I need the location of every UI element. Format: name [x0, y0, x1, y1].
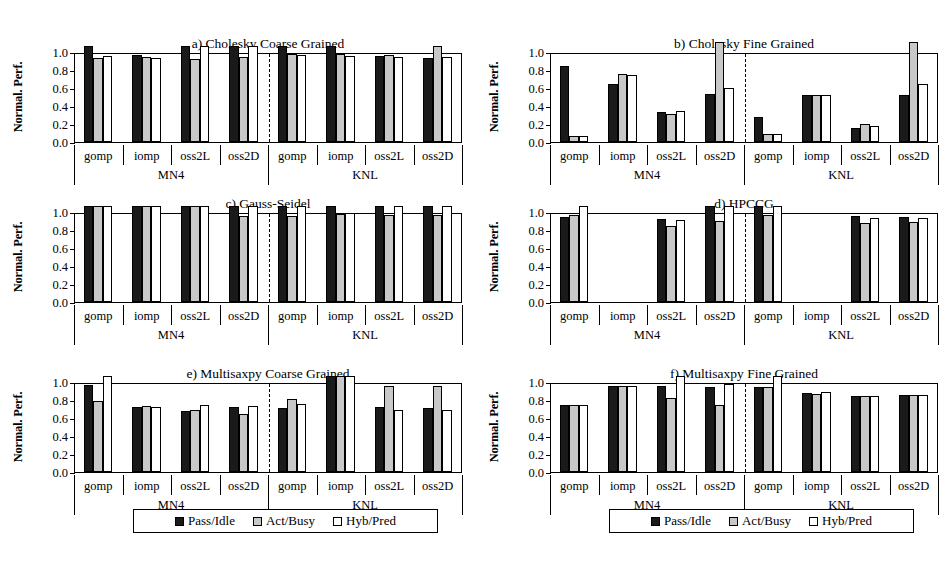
x-group-separator	[647, 305, 648, 325]
bar-e-5-hyb	[345, 376, 355, 472]
bar-c-0-pass	[84, 206, 94, 302]
bar-e-1-hyb	[151, 407, 161, 472]
chart-panel-e: e) Multisaxpy Coarse GrainedNormal. Perf…	[0, 366, 476, 529]
bar-f-0-pass	[560, 405, 570, 472]
x-group-label: gomp	[74, 149, 123, 163]
bar-e-3-pass	[229, 407, 239, 472]
bar-d-2-act	[666, 226, 676, 302]
x-group-separator	[123, 475, 124, 495]
bar-a-2-pass	[181, 46, 191, 142]
bar-c-3-act	[239, 216, 249, 302]
x-group-label: gomp	[744, 479, 793, 493]
bar-f-6-pass	[851, 396, 861, 473]
bar-c-1-hyb	[151, 206, 161, 302]
bar-d-7-pass	[899, 217, 909, 303]
bar-b-3-hyb	[724, 88, 734, 142]
y-tick-mark	[546, 303, 551, 304]
bar-e-4-act	[287, 399, 297, 472]
x-group-label: oss2L	[841, 149, 890, 163]
bar-a-4-pass	[278, 46, 288, 142]
bar-e-3-hyb	[248, 406, 258, 472]
x-group-label: gomp	[74, 479, 123, 493]
legend-swatch-act-icon	[253, 517, 262, 526]
y-tick-mark	[70, 303, 75, 304]
bar-f-5-hyb	[821, 392, 831, 472]
y-tick-label: 0.8	[528, 66, 544, 76]
bar-c-7-act	[433, 215, 443, 302]
legend-swatch-act-icon	[729, 517, 738, 526]
bar-f-3-pass	[705, 387, 715, 473]
x-group-label: iomp	[317, 479, 366, 493]
x-group-separator	[890, 305, 891, 325]
x-group-label: iomp	[123, 149, 172, 163]
bar-b-4-act	[763, 134, 773, 142]
bar-e-7-pass	[423, 408, 433, 472]
bar-a-0-act	[93, 58, 103, 142]
bar-c-7-pass	[423, 206, 433, 302]
x-group-separator	[938, 475, 939, 515]
x-group-label: oss2L	[841, 479, 890, 493]
y-tick-label: 1.0	[528, 48, 544, 58]
panel-title-d: d) HPCCG	[550, 196, 938, 212]
x-axis-c: gompiomposs2Loss2Dgompiomposs2Loss2DMN4K…	[0, 305, 476, 347]
y-tick-mark	[546, 473, 551, 474]
x-group-label: oss2L	[365, 309, 414, 323]
y-axis-label-d: Normal. Perf.	[487, 212, 502, 302]
x-group-label: iomp	[793, 309, 842, 323]
bar-d-2-hyb	[676, 220, 686, 302]
y-tick-label: 0.2	[528, 120, 544, 130]
y-tick-label: 0.6	[52, 244, 68, 254]
y-tick-label: 0.4	[52, 102, 68, 112]
x-group-label: gomp	[550, 309, 599, 323]
bar-e-7-hyb	[442, 410, 452, 472]
machine-divider-e	[269, 384, 270, 472]
y-tick-label: 1.0	[52, 208, 68, 218]
bar-e-1-act	[142, 406, 152, 472]
x-group-separator	[317, 145, 318, 165]
bar-a-5-act	[336, 54, 346, 142]
y-tick-mark	[70, 143, 75, 144]
x-group-label: oss2L	[647, 479, 696, 493]
plot-area-b	[550, 53, 938, 143]
x-group-label: oss2D	[696, 479, 745, 493]
bar-b-2-pass	[657, 112, 667, 142]
bar-d-4-act	[763, 215, 773, 302]
bar-b-2-hyb	[676, 111, 686, 142]
x-group-label: gomp	[744, 149, 793, 163]
y-tick-label: 0.2	[528, 280, 544, 290]
bar-d-7-hyb	[918, 218, 928, 302]
x-group-separator	[414, 475, 415, 495]
bar-f-2-act	[666, 398, 676, 472]
x-group-separator	[696, 305, 697, 325]
bar-b-0-pass	[560, 66, 570, 142]
x-group-label: iomp	[793, 479, 842, 493]
legend-label: Pass/Idle	[188, 513, 235, 529]
x-group-label: gomp	[268, 309, 317, 323]
bar-f-5-pass	[802, 393, 812, 472]
bar-f-1-pass	[608, 386, 618, 472]
y-axis-ticks-e: 1.00.80.60.40.20.0	[38, 383, 68, 473]
bar-c-5-act	[336, 214, 346, 302]
x-group-separator	[171, 145, 172, 165]
x-group-label: iomp	[317, 149, 366, 163]
x-group-separator	[123, 145, 124, 165]
y-tick-label: 0.4	[52, 432, 68, 442]
legend-item-act: Act/Busy	[253, 513, 315, 529]
legend-swatch-hyb-icon	[333, 517, 342, 526]
x-group-label: oss2D	[696, 309, 745, 323]
bar-e-6-pass	[375, 407, 385, 472]
bar-d-7-act	[909, 222, 919, 302]
plot-area-e	[74, 383, 462, 473]
bar-b-3-pass	[705, 94, 715, 142]
machine-label-mn4: MN4	[550, 328, 744, 342]
machine-divider-d	[745, 214, 746, 302]
bar-e-5-act	[336, 376, 346, 472]
x-group-separator	[599, 475, 600, 495]
x-group-label: oss2L	[365, 149, 414, 163]
bar-c-5-pass	[326, 206, 336, 302]
x-group-label: oss2L	[171, 149, 220, 163]
x-group-label: oss2D	[414, 479, 463, 493]
bar-d-4-hyb	[773, 206, 783, 302]
bar-d-3-act	[715, 221, 725, 302]
bar-b-2-act	[666, 114, 676, 142]
